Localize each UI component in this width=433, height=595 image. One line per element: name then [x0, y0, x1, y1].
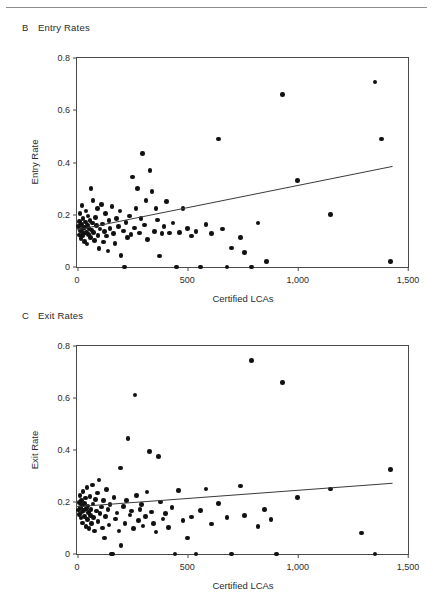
panel-c-heading: CExit Rates [22, 310, 83, 321]
panel-exit-rates: CExit Rates Exit Rate Certified LCAs 00.… [0, 310, 433, 595]
y-tick-label: 0.4 [57, 158, 77, 168]
regression-line-b [77, 58, 408, 267]
y-tick-label: 0.2 [57, 497, 77, 507]
y-tick-label: 0.4 [57, 445, 77, 455]
panel-b-letter: B [22, 22, 38, 33]
y-axis-label-exit-rate: Exit Rate [29, 431, 40, 470]
y-tick-label: 0.6 [57, 393, 77, 403]
y-tick-label: 0.2 [57, 210, 77, 220]
panel-b-heading: BEntry Rates [22, 22, 90, 33]
x-tick-label: 500 [180, 267, 195, 285]
panel-b-title: Entry Rates [38, 22, 90, 33]
x-tick-label: 1,000 [286, 267, 309, 285]
x-tick-label: 0 [74, 267, 79, 285]
x-axis-label-certified-lcas: Certified LCAs [212, 580, 273, 591]
y-tick-label: 0.6 [57, 105, 77, 115]
header-rule [6, 7, 427, 8]
x-tick-label: 0 [74, 554, 79, 572]
y-tick-label: 0.8 [57, 341, 77, 351]
panel-c-title: Exit Rates [38, 310, 83, 321]
x-tick-label: 1,500 [397, 554, 420, 572]
x-axis-label-certified-lcas: Certified LCAs [212, 293, 273, 304]
x-tick-label: 500 [180, 554, 195, 572]
y-axis-label-entry-rate: Entry Rate [29, 140, 40, 185]
scatter-plot-exit-rates: 00.20.40.60.8 05001,0001,500 [76, 345, 409, 555]
y-tick-label: 0.8 [57, 53, 77, 63]
regression-line-c [77, 346, 408, 554]
x-tick-label: 1,500 [397, 267, 420, 285]
panel-entry-rates: BEntry Rates Entry Rate Certified LCAs 0… [0, 22, 433, 312]
figure-container: BEntry Rates Entry Rate Certified LCAs 0… [0, 0, 433, 595]
scatter-plot-entry-rates: 00.20.40.60.8 05001,0001,500 [76, 57, 409, 268]
x-tick-label: 1,000 [286, 554, 309, 572]
panel-c-letter: C [22, 310, 38, 321]
